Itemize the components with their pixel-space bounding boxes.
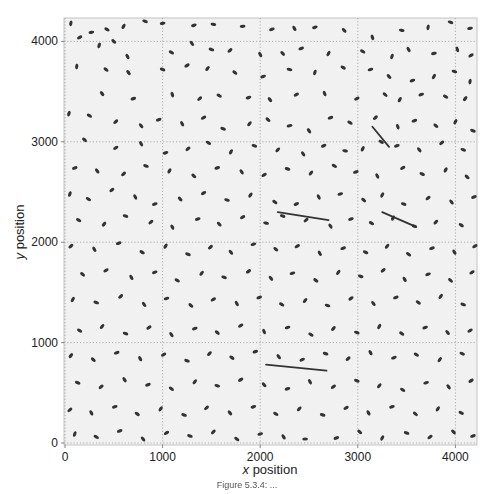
x-tick-label: 4000 <box>442 450 469 464</box>
y-tick-label: 1000 <box>31 336 58 350</box>
y-axis: 01000200030004000 <box>31 34 64 450</box>
particle-marker <box>302 437 308 440</box>
y-tick-label: 0 <box>51 436 58 450</box>
x-tick-label: 0 <box>62 450 69 464</box>
y-axis-label: y position <box>12 205 27 261</box>
scatter-chart: 01000200030004000 01000200030004000 x po… <box>0 0 494 494</box>
y-tick-label: 3000 <box>31 135 58 149</box>
y-tick-label: 2000 <box>31 235 58 249</box>
figure-caption: Figure 5.3.4: ... <box>0 480 494 490</box>
x-tick-label: 3000 <box>344 450 371 464</box>
x-axis-label: x position <box>242 462 298 477</box>
x-tick-label: 1000 <box>149 450 176 464</box>
y-tick-label: 4000 <box>31 34 58 48</box>
